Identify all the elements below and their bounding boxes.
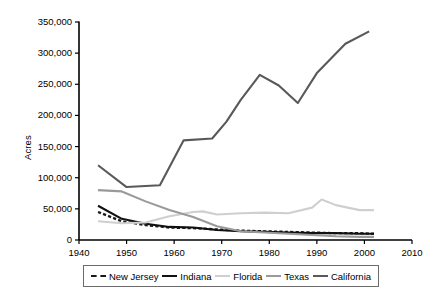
legend-item-texas[interactable]: Texas <box>266 271 309 282</box>
legend-swatch-icon <box>313 275 328 277</box>
legend-item-california[interactable]: California <box>313 271 371 282</box>
y-tick-label: 50,000 <box>43 204 72 214</box>
legend-item-new-jersey[interactable]: New Jersey <box>91 271 159 282</box>
line-chart: Acres 050,000100,000150,000200,000250,00… <box>0 0 429 300</box>
chart-legend: New JerseyIndianaFloridaTexasCalifornia <box>83 265 379 287</box>
legend-swatch-icon <box>266 275 281 277</box>
y-tick-label: 350,000 <box>38 17 72 27</box>
y-tick-label: 250,000 <box>38 79 72 89</box>
y-tick-label: 150,000 <box>38 142 72 152</box>
y-tick-label: 200,000 <box>38 110 72 120</box>
x-tick-label: 1940 <box>59 248 99 258</box>
x-tick-label: 1950 <box>107 248 147 258</box>
y-tick-label: 100,000 <box>38 173 72 183</box>
legend-swatch-icon <box>162 275 177 277</box>
y-tick-label: 300,000 <box>38 48 72 58</box>
legend-swatch-icon <box>91 275 106 277</box>
x-tick-label: 1980 <box>249 248 289 258</box>
legend-item-florida[interactable]: Florida <box>215 271 262 282</box>
legend-item-label: Texas <box>284 271 309 282</box>
x-tick-label: 1970 <box>202 248 242 258</box>
series-line-florida <box>98 200 374 224</box>
legend-item-label: New Jersey <box>109 271 159 282</box>
series-line-california <box>98 31 369 187</box>
legend-swatch-icon <box>215 275 230 277</box>
legend-item-label: California <box>331 271 371 282</box>
x-tick-label: 2000 <box>344 248 384 258</box>
data-series <box>98 31 374 237</box>
legend-item-label: Florida <box>233 271 262 282</box>
legend-item-label: Indiana <box>180 271 211 282</box>
x-tick-label: 1960 <box>154 248 194 258</box>
x-tick-label: 2010 <box>392 248 429 258</box>
y-tick-label: 0 <box>67 235 72 245</box>
x-tick-label: 1990 <box>297 248 337 258</box>
legend-item-indiana[interactable]: Indiana <box>162 271 211 282</box>
